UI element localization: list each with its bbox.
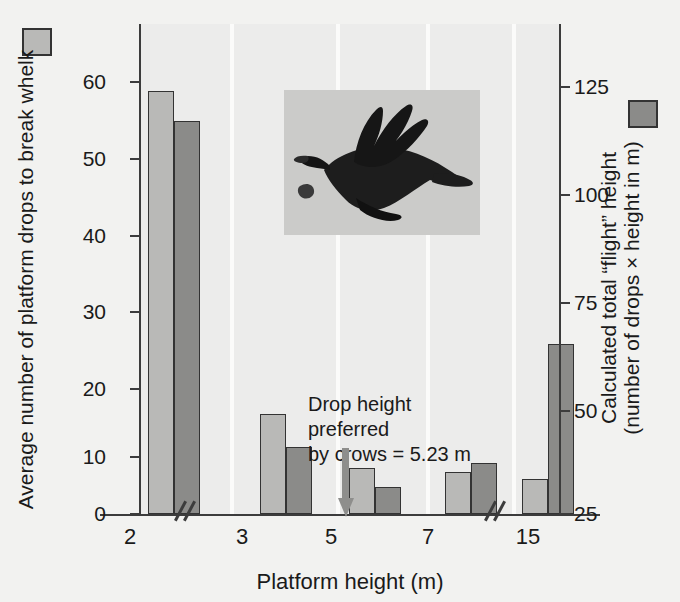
bar-3-light: [260, 414, 286, 514]
bar-2-dark: [174, 121, 200, 514]
right-tick-label-50: 50: [574, 400, 597, 421]
left-tick-label-50: 50: [83, 148, 106, 169]
annotation-arrow-icon: [338, 448, 352, 518]
right-tick-50: [561, 410, 570, 412]
right-tick-25: [561, 513, 570, 515]
bar-7-light: [445, 472, 471, 514]
right-y-axis-title-line1: Calculated total “flight” height: [597, 152, 620, 424]
bar-5-dark: [375, 487, 401, 514]
left-tick-label-30: 30: [83, 301, 106, 322]
left-tick-label-60: 60: [83, 71, 106, 92]
right-tick-75: [561, 302, 570, 304]
right-tick-label-75: 75: [574, 292, 597, 313]
left-tick-50: [130, 158, 139, 160]
bar-2-light: [148, 91, 174, 514]
bar-15-light: [522, 479, 548, 514]
right-y-axis-title-line2: (number of drops × height in m): [620, 141, 643, 435]
left-tick-0: [130, 513, 139, 515]
left-tick-20: [130, 388, 139, 390]
x-category-label-3: 3: [212, 525, 272, 549]
right-tick-100: [561, 194, 570, 196]
left-tick-label-20: 20: [83, 378, 106, 399]
left-tick-60: [130, 81, 139, 83]
left-tick-10: [130, 456, 139, 458]
left-y-axis-line: [139, 24, 141, 515]
annotation-line-1: Drop height: [308, 392, 518, 417]
right-y-axis-line: [559, 24, 561, 515]
right-y-axis-title: Calculated total “flight” height (number…: [597, 38, 643, 538]
right-tick-label-25: 25: [574, 503, 597, 524]
axis-break-mark-1: [173, 500, 199, 526]
right-tick-125: [561, 86, 570, 88]
x-category-label-5: 5: [301, 525, 361, 549]
chart-figure: 0102030405060 255075100125 235715 Averag…: [0, 0, 680, 602]
left-y-axis-title: Average number of platform drops to brea…: [14, 50, 37, 510]
x-category-label-7: 7: [398, 525, 458, 549]
left-tick-label-0: 0: [94, 503, 106, 524]
axis-break-mark-2: [483, 500, 509, 526]
x-category-label-15: 15: [498, 525, 558, 549]
left-tick-30: [130, 311, 139, 313]
left-tick-40: [130, 235, 139, 237]
x-category-label-2: 2: [100, 525, 160, 549]
left-tick-label-40: 40: [83, 225, 106, 246]
left-tick-label-10: 10: [83, 446, 106, 467]
annotation-line-2: preferred: [308, 417, 518, 442]
x-axis-title: Platform height (m): [140, 570, 560, 593]
